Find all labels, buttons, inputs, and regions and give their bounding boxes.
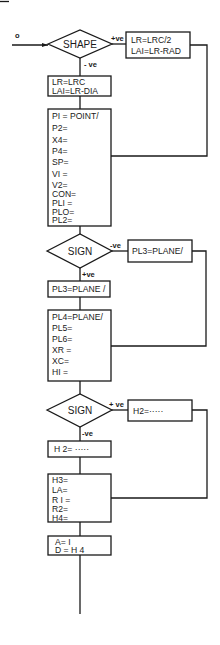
- box-line: SP=: [52, 157, 68, 167]
- no-label: -ve: [110, 241, 121, 250]
- box-line: PL2=: [52, 215, 72, 225]
- box-line: PL3=PLANE/: [132, 246, 183, 256]
- box-line: LR=LRC/2: [131, 35, 172, 45]
- box-line: D = H 4: [55, 545, 85, 555]
- box-line: VI =: [52, 169, 68, 179]
- arrow-icon: [42, 43, 48, 47]
- box-line: P4=: [52, 146, 68, 156]
- yes-label: + ve: [109, 400, 124, 409]
- box-line: XC=: [52, 356, 69, 366]
- entry-label: o: [15, 31, 20, 40]
- no-label: -ve: [82, 429, 93, 438]
- no-label: - ve: [84, 60, 97, 69]
- box-line: P2=: [52, 123, 68, 133]
- box-line: LA=: [52, 485, 68, 495]
- merge-connector: [111, 45, 207, 156]
- box-line: PI = POINT/: [52, 111, 99, 121]
- decision-sign-label: SIGN: [68, 405, 92, 416]
- flowchart: o SHAPE +ve - ve LR=LRC/2 LAI=LR-RAD LR=…: [0, 0, 220, 645]
- box-line: H4=: [52, 513, 68, 523]
- box-line: H2=·····: [133, 406, 163, 416]
- box-line: PL5=: [52, 323, 72, 333]
- box-line: H 2= ·····: [54, 444, 89, 454]
- decision-sign-label: SIGN: [68, 246, 92, 257]
- box-line: XR =: [52, 345, 71, 355]
- yes-label: +ve: [82, 270, 95, 279]
- box-line: PL6=: [52, 334, 72, 344]
- merge-connector: [111, 410, 207, 498]
- decision-shape-label: SHAPE: [63, 39, 97, 50]
- box-line: LAI=LR-RAD: [131, 46, 181, 56]
- box-line: HI =: [52, 367, 68, 377]
- merge-connector: [111, 251, 206, 346]
- yes-label: +ve: [111, 34, 124, 43]
- block3-lines: H3= LA= R I = R2= H4=: [52, 475, 70, 523]
- box-line: X4=: [52, 135, 68, 145]
- box-line: PL3=PLANE /: [52, 284, 106, 294]
- box-line: H3=: [52, 475, 68, 485]
- box-line: LAI=LR-DIA: [52, 86, 98, 96]
- box-line: PL4=PLANE/: [52, 312, 103, 322]
